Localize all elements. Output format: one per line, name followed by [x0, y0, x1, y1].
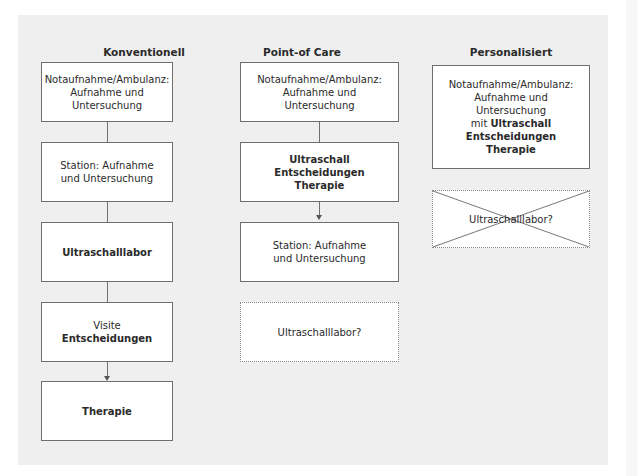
box-text: und Untersuchung	[61, 172, 153, 185]
pers-box-ultraschalllabor-crossed: Ultraschalllabor?	[432, 190, 590, 248]
box-text-line: mit Ultraschall	[471, 117, 551, 130]
box-text: Ultraschalllabor	[62, 246, 152, 259]
poc-box-ultraschalllabor-optional: Ultraschalllabor?	[240, 302, 399, 362]
poc-box-ultraschall: Ultraschall Entscheidungen Therapie	[240, 142, 399, 202]
column-title-konventionell: Konventionell	[64, 46, 224, 58]
box-text: mit	[471, 118, 487, 129]
box-text: Ultraschalllabor?	[278, 326, 362, 339]
connector-line	[107, 282, 108, 302]
box-text: Ultraschalllabor?	[469, 213, 553, 226]
right-edge-strip	[626, 0, 637, 476]
konv-box-visite: Visite Entscheidungen	[41, 302, 173, 362]
box-text: und Untersuchung	[273, 252, 365, 265]
box-text: Notaufnahme/Ambulanz:	[45, 73, 170, 86]
box-text: Entscheidungen	[466, 130, 556, 143]
box-text: Aufnahme und	[70, 86, 144, 99]
box-text: Notaufnahme/Ambulanz:	[257, 73, 382, 86]
box-text: Ultraschall	[289, 153, 350, 166]
box-text: Untersuchung	[284, 99, 354, 112]
box-text: Therapie	[486, 143, 536, 156]
box-text: Untersuchung	[476, 104, 546, 117]
box-text: Ultraschall	[491, 118, 552, 129]
connector-line	[107, 202, 108, 222]
poc-box-station: Station: Aufnahme und Untersuchung	[240, 222, 399, 282]
poc-box-notaufnahme: Notaufnahme/Ambulanz: Aufnahme und Unter…	[240, 62, 399, 122]
konv-box-therapie: Therapie	[41, 381, 173, 441]
pers-box-notaufnahme: Notaufnahme/Ambulanz: Aufnahme und Unter…	[432, 65, 590, 169]
box-text: Aufnahme und	[283, 86, 357, 99]
connector-line	[107, 362, 108, 377]
box-text: Aufnahme und	[474, 91, 548, 104]
box-text: Untersuchung	[72, 99, 142, 112]
konv-box-station: Station: Aufnahme und Untersuchung	[41, 142, 173, 202]
column-title-point-of-care: Point-of Care	[222, 46, 382, 58]
box-text: Notaufnahme/Ambulanz:	[449, 78, 574, 91]
box-text: Therapie	[295, 179, 345, 192]
box-text: Therapie	[82, 405, 132, 418]
connector-line	[107, 122, 108, 142]
column-title-personalisiert: Personalisiert	[431, 46, 591, 58]
arrow-down-icon	[316, 215, 322, 220]
box-text: Station: Aufnahme	[273, 239, 367, 252]
box-text: Entscheidungen	[62, 332, 152, 345]
connector-line	[319, 202, 320, 216]
box-text: Station: Aufnahme	[60, 159, 154, 172]
box-text: Entscheidungen	[274, 166, 364, 179]
box-text: Visite	[93, 319, 120, 332]
konv-box-ultraschalllabor: Ultraschalllabor	[41, 222, 173, 282]
connector-line	[319, 122, 320, 142]
konv-box-notaufnahme: Notaufnahme/Ambulanz: Aufnahme und Unter…	[41, 62, 173, 122]
